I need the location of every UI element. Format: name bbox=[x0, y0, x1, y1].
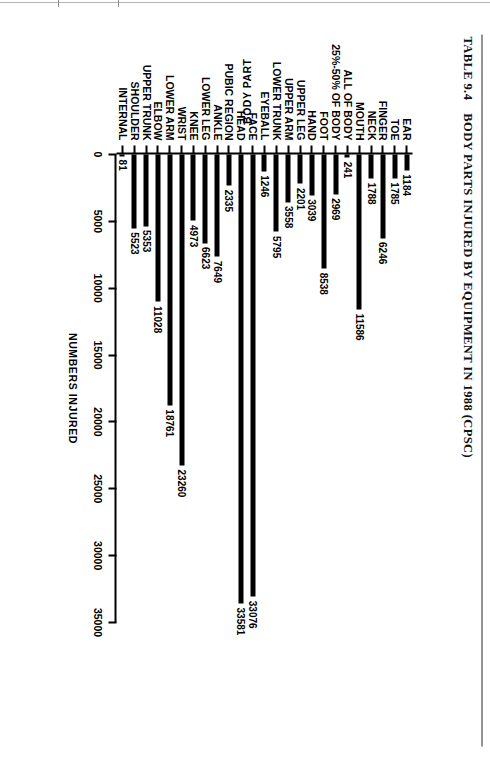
bar-value-label: 33076 bbox=[247, 600, 258, 628]
rotated-figure: TABLE 9.4BODY PARTS INJURED BY EQUIPMENT… bbox=[0, 0, 490, 779]
category-axis-tick bbox=[121, 145, 123, 153]
bar-value-label: 5523 bbox=[128, 232, 139, 254]
category-axis-tick bbox=[239, 145, 241, 153]
category-label: TOE bbox=[388, 119, 400, 140]
bar bbox=[392, 154, 397, 178]
category-axis-tick bbox=[334, 145, 336, 153]
bar bbox=[214, 154, 219, 256]
bar-value-label: 2335 bbox=[223, 189, 234, 211]
x-axis-tick bbox=[108, 621, 116, 623]
bar-value-label: 11028 bbox=[152, 305, 163, 332]
bar-value-label: 6623 bbox=[199, 247, 210, 269]
category-label: EAR bbox=[400, 118, 412, 140]
category-axis-tick bbox=[156, 145, 158, 153]
category-label: FOOT bbox=[317, 111, 329, 140]
bar-value-label: 18761 bbox=[164, 409, 175, 437]
bar-value-label: 1788 bbox=[365, 182, 376, 204]
category-axis-tick bbox=[393, 145, 395, 153]
bar-value-label: 33581 bbox=[235, 607, 246, 635]
bar bbox=[333, 154, 338, 194]
bar bbox=[380, 154, 385, 238]
x-axis-tick-label: 20000 bbox=[91, 407, 103, 436]
x-axis-tick bbox=[108, 487, 116, 489]
bar-value-label: 3558 bbox=[282, 206, 293, 228]
bar bbox=[285, 154, 290, 202]
x-axis-tick-label: 5000 bbox=[91, 209, 103, 232]
category-axis-tick bbox=[346, 145, 348, 153]
category-label: INTERNAL bbox=[116, 87, 128, 140]
x-axis-tick bbox=[108, 420, 116, 422]
category-label: ANKLE bbox=[211, 104, 223, 140]
table-number: TABLE 9.4 bbox=[460, 36, 474, 100]
x-axis-tick-label: 15000 bbox=[91, 340, 103, 369]
category-label: FINGER bbox=[376, 100, 388, 140]
table-title: TABLE 9.4BODY PARTS INJURED BY EQUIPMENT… bbox=[459, 36, 474, 458]
category-label: KNEE bbox=[187, 111, 199, 140]
bar bbox=[119, 154, 124, 156]
category-axis-tick bbox=[204, 145, 206, 153]
x-axis-tick-label: 10000 bbox=[91, 273, 103, 302]
category-axis-tick bbox=[227, 145, 229, 153]
bar-value-label: 1184 bbox=[401, 174, 412, 196]
x-axis-tick bbox=[108, 220, 116, 222]
category-axis-tick bbox=[358, 145, 360, 153]
bar bbox=[273, 154, 278, 231]
bar bbox=[167, 154, 172, 405]
x-axis-title: NUMBERS INJURED bbox=[66, 154, 78, 622]
x-axis-tick bbox=[108, 153, 116, 155]
category-axis-tick bbox=[381, 145, 383, 153]
category-label: 25%-50% OF BODY bbox=[329, 44, 341, 140]
bar-value-label: 2969 bbox=[330, 198, 341, 220]
category-label: UPPER ARM bbox=[282, 77, 294, 140]
bar-value-label: 7649 bbox=[211, 260, 222, 282]
x-axis-tick-label: 0 bbox=[91, 151, 103, 157]
category-label: UPPER LEG bbox=[294, 79, 306, 140]
category-axis-tick bbox=[133, 145, 135, 153]
category-label: HAND bbox=[305, 110, 317, 140]
category-label: SHOULDER bbox=[128, 81, 140, 140]
bar bbox=[404, 154, 409, 170]
bar bbox=[179, 154, 184, 465]
bar-value-label: 8538 bbox=[318, 272, 329, 294]
category-axis-tick bbox=[180, 145, 182, 153]
category-label: WRIST bbox=[175, 106, 187, 140]
x-axis-tick-label: 35000 bbox=[91, 607, 103, 636]
category-label: MOUTH bbox=[353, 102, 365, 141]
bar bbox=[368, 154, 373, 178]
category-label: UPPER TRUNK bbox=[140, 64, 152, 140]
category-axis-tick bbox=[370, 145, 372, 153]
bar bbox=[356, 154, 361, 309]
category-axis-tick bbox=[287, 145, 289, 153]
category-axis-tick bbox=[145, 145, 147, 153]
category-axis-tick bbox=[310, 145, 312, 153]
bar bbox=[262, 154, 267, 171]
category-axis-tick bbox=[275, 145, 277, 153]
category-label: PUBIC REGION bbox=[222, 63, 234, 140]
bar-value-label: 241 bbox=[341, 161, 352, 178]
category-label: ALL OF BODY bbox=[341, 69, 353, 140]
bar bbox=[250, 154, 255, 596]
category-label: EYEBALL bbox=[258, 91, 270, 140]
y-axis-title-text: BODY PART bbox=[240, 58, 252, 123]
bar-value-label: 6246 bbox=[377, 242, 388, 264]
scanned-page: TABLE 9.4BODY PARTS INJURED BY EQUIPMENT… bbox=[0, 0, 490, 779]
category-axis-tick bbox=[405, 145, 407, 153]
x-axis-tick-label: 30000 bbox=[91, 541, 103, 570]
bar-value-label: 1246 bbox=[259, 175, 270, 197]
bar-value-label: 2201 bbox=[294, 187, 305, 209]
category-axis-tick bbox=[216, 145, 218, 153]
bar bbox=[238, 154, 243, 603]
bar-chart-plot: 050001000015000200002500030000350001184E… bbox=[116, 154, 412, 622]
bar-value-label: 5353 bbox=[140, 230, 151, 252]
bar-value-label: 1785 bbox=[389, 182, 400, 204]
category-axis-tick bbox=[192, 145, 194, 153]
bar-value-label: 5795 bbox=[270, 235, 281, 257]
x-axis-tick bbox=[108, 354, 116, 356]
bar-value-label: 11586 bbox=[353, 313, 364, 340]
x-axis-tick-label: 25000 bbox=[91, 474, 103, 503]
bar bbox=[190, 154, 195, 220]
bar-value-label: 3039 bbox=[306, 199, 317, 221]
bar bbox=[155, 154, 160, 301]
category-label: ELBOW bbox=[151, 101, 163, 140]
category-axis-tick bbox=[299, 145, 301, 153]
